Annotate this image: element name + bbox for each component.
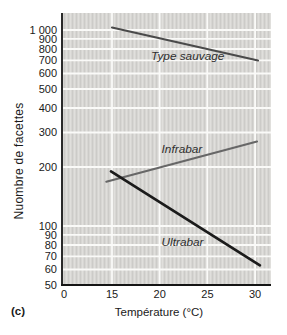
x-tick-label: 20 [154,288,166,300]
y-tick-label: 70 [45,250,57,262]
y-tick-label: 300 [39,126,57,138]
series-label-type-sauvage: Type sauvage [151,49,225,63]
x-axis-title: Température (°C) [115,306,203,318]
x-tick-label: 25 [201,288,213,300]
facets-vs-temperature-chart: Type sauvageInfrabarUltrabar506070809010… [0,0,287,335]
x-tick-label: 0 [61,288,67,300]
y-axis-title: Nuombre de facettes [12,102,26,219]
series-label-infrabar: Infrabar [162,142,204,156]
x-tick-label: 15 [106,288,118,300]
y-tick-label: 600 [39,67,57,79]
y-tick-label: 500 [39,83,57,95]
y-tick-label: 700 [39,54,57,66]
y-tick-label: 100 [39,220,57,232]
y-tick-label: 400 [39,102,57,114]
figure-panel-c: Type sauvageInfrabarUltrabar506070809010… [0,0,287,335]
y-tick-label: 1 000 [29,24,57,36]
y-tick-label: 60 [45,263,57,275]
panel-label: (c) [11,305,25,317]
series-label-ultrabar: Ultrabar [162,235,205,249]
y-tick-label: 200 [39,161,57,173]
x-tick-label: 30 [249,288,261,300]
y-tick-label: 50 [45,279,57,291]
